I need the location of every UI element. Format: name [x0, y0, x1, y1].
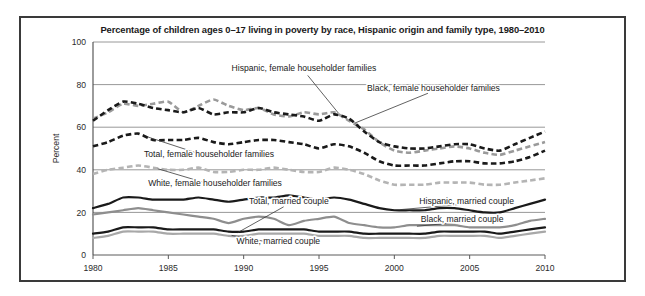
y-tick-label-80: 80 [76, 80, 86, 90]
x-tick-label-1985: 1985 [159, 263, 178, 273]
series-line-black-female-householder-families [93, 102, 545, 151]
x-tick-label-2000: 2000 [385, 263, 404, 273]
annotation-hispanic-married-couple-label: Hispanic, married couple [419, 196, 514, 206]
annotation-black-married-couple-label: Black, married couple [421, 214, 504, 224]
annotation-total-female-householder-families-label: Total, female householder families [144, 149, 274, 159]
x-tick-label-1995: 1995 [309, 263, 328, 273]
chart-figure: Percentage of children ages 0–17 living … [19, 16, 626, 282]
annotation-hispanic-female-householder-families-label: Hispanic, female householder families [232, 63, 377, 73]
y-tick-label-60: 60 [76, 122, 86, 132]
annotation-white-married-couple-label: White, married couple [237, 236, 321, 246]
line-chart-svg: 020406080100Percent198019851990199520002… [21, 18, 628, 284]
x-tick-label-1990: 1990 [234, 263, 253, 273]
annotation-white-female-householder-families-label: White, female householder families [148, 178, 282, 188]
annotation-black-female-householder-families-label: Black, female householder families [367, 83, 500, 93]
annotation-hispanic-female-householder-families-leader [308, 75, 339, 113]
y-axis-title: Percent [51, 133, 61, 163]
y-tick-label-40: 40 [76, 165, 86, 175]
x-tick-label-2010: 2010 [535, 263, 554, 273]
x-tick-label-2005: 2005 [460, 263, 479, 273]
annotation-total-married-couple-label: Total, married couple [249, 196, 329, 206]
plot-area-wrapper: 020406080100Percent198019851990199520002… [21, 18, 628, 284]
y-tick-label-20: 20 [76, 208, 86, 218]
y-tick-label-0: 0 [81, 250, 86, 260]
y-tick-label-100: 100 [72, 37, 87, 47]
x-tick-label-1980: 1980 [83, 263, 102, 273]
annotation-black-female-householder-families-leader [355, 93, 428, 123]
